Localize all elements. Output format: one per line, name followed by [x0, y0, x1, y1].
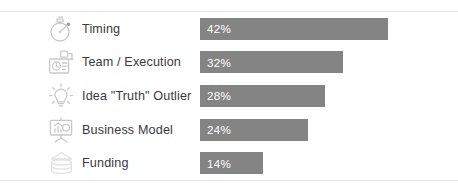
- chart-row: Idea "Truth" Outlier28%: [0, 79, 458, 113]
- category-label: Timing: [82, 22, 120, 36]
- lightbulb-icon: [44, 81, 78, 111]
- bar: 28%: [200, 85, 325, 107]
- chart-row: Business Model24%: [0, 113, 458, 147]
- bar-track: 24%: [200, 119, 440, 141]
- bar: 14%: [200, 152, 263, 174]
- coin-stack-icon: [44, 148, 78, 178]
- bar-value-label: 32%: [200, 56, 231, 69]
- category-label: Funding: [82, 156, 129, 170]
- bar: 24%: [200, 119, 308, 141]
- chart-row: Timing42%: [0, 12, 458, 46]
- team-badge-icon: [44, 47, 78, 77]
- bar: 42%: [200, 18, 388, 40]
- bar-track: 14%: [200, 152, 440, 174]
- bar: 32%: [200, 51, 343, 73]
- presentation-chart-icon: [44, 115, 78, 145]
- bar-track: 28%: [200, 85, 440, 107]
- stopwatch-icon: [44, 14, 78, 44]
- category-label: Idea "Truth" Outlier: [82, 89, 191, 103]
- bar-track: 32%: [200, 51, 440, 73]
- category-label: Business Model: [82, 123, 173, 137]
- bar-chart-rows: Timing42% Team / Execution32% Idea "Trut…: [0, 12, 458, 180]
- chart-canvas: Timing42% Team / Execution32% Idea "Trut…: [0, 0, 458, 191]
- category-label: Team / Execution: [82, 55, 181, 69]
- chart-row: Funding14%: [0, 146, 458, 180]
- chart-row: Team / Execution32%: [0, 46, 458, 80]
- bar-value-label: 42%: [200, 22, 231, 35]
- bar-value-label: 28%: [200, 89, 231, 102]
- bar-track: 42%: [200, 18, 440, 40]
- bottom-divider: [0, 180, 458, 181]
- bar-value-label: 24%: [200, 123, 231, 136]
- bar-value-label: 14%: [200, 157, 231, 170]
